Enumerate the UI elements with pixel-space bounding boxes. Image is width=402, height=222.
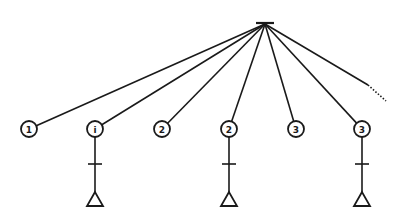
edge-n1: [36, 24, 265, 126]
subtree-triangle-icon: [221, 192, 237, 206]
node-n2: i: [87, 121, 103, 137]
node-label: 1: [26, 125, 32, 135]
node-label: 2: [159, 125, 165, 135]
nodes: 1i2233: [21, 121, 370, 137]
edge-n2: [102, 24, 265, 125]
edges: [36, 24, 356, 126]
edge-n6: [265, 24, 357, 123]
subtree-n4: [221, 137, 237, 206]
node-n6: 3: [354, 121, 370, 137]
subtree-triangle-icon: [354, 192, 370, 206]
node-n4: 2: [221, 121, 237, 137]
continuation-dotted: [368, 85, 386, 101]
node-label: 3: [293, 125, 299, 135]
node-label: i: [93, 125, 96, 135]
subtree-n6: [354, 137, 370, 206]
node-n5: 3: [288, 121, 304, 137]
node-n3: 2: [154, 121, 170, 137]
subtree-n2: [87, 137, 103, 206]
edge-n3: [168, 24, 265, 123]
edge-n4: [232, 24, 265, 121]
node-n1: 1: [21, 121, 37, 137]
node-label: 2: [226, 125, 232, 135]
node-label: 3: [359, 125, 365, 135]
tree-diagram: 1i2233: [0, 0, 402, 222]
subtree-triangle-icon: [87, 192, 103, 206]
subtree-markers: [87, 137, 370, 206]
